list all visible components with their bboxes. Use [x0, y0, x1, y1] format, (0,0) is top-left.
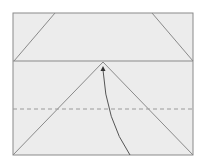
- fold-diagram: [0, 0, 204, 165]
- paper-frame: [13, 13, 193, 155]
